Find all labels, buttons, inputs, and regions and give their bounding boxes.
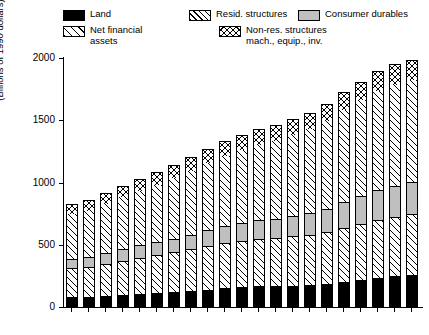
bar-1979: [219, 141, 231, 307]
bar-segment: [169, 240, 179, 254]
chart-container: Land Resid. structures Consumer durables…: [0, 0, 429, 335]
bar-segment: [339, 110, 349, 203]
x-tick-mark: [207, 308, 208, 312]
bar-segment: [305, 129, 315, 214]
bar-segment: [254, 240, 264, 287]
bar-segment: [135, 259, 145, 295]
bar-segment: [271, 239, 281, 287]
bar-segment: [407, 183, 417, 215]
bar-segment: [101, 254, 111, 265]
bar-segment: [322, 210, 332, 233]
bar-segment: [186, 236, 196, 251]
legend-label-land: Land: [90, 9, 111, 20]
x-tick-mark: [241, 308, 242, 312]
bar-segment: [169, 166, 179, 178]
x-tick-mark: [71, 308, 72, 312]
x-tick-mark: [360, 308, 361, 312]
bar-segment: [84, 211, 94, 258]
legend-label-non-res-structures: Non-res. structures mach., equip., inv.: [246, 25, 327, 46]
bar-segment: [390, 277, 400, 308]
bar-segment: [356, 197, 366, 224]
x-tick-mark: [377, 308, 378, 312]
bar-segment: [135, 246, 145, 258]
bar-segment: [322, 285, 332, 308]
y-tick-label: 500: [15, 240, 55, 250]
x-tick-mark: [411, 308, 412, 312]
bar-segment: [220, 227, 230, 244]
bar-segment: [254, 130, 264, 144]
bar-segment: [135, 295, 145, 308]
y-axis-title: (Billions of 1990 dollars): [0, 0, 5, 120]
plot-area: [64, 58, 422, 307]
bar-segment: [135, 191, 145, 246]
bar-segment: [271, 141, 281, 220]
bar-segment: [322, 105, 332, 121]
bar-segment: [322, 121, 332, 210]
bar-segment: [67, 260, 77, 269]
bar-1971: [83, 200, 95, 307]
bar-segment: [67, 269, 77, 298]
bar-segment: [220, 244, 230, 289]
diagonal-hatch-swatch-icon: [63, 26, 85, 37]
y-tick-label: 1500: [15, 115, 55, 125]
bar-segment: [67, 214, 77, 260]
bar-segment: [305, 286, 315, 308]
bar-segment: [203, 247, 213, 291]
bar-segment: [84, 298, 94, 308]
bar-1990: [406, 60, 418, 308]
bar-1973: [117, 186, 129, 307]
bar-1975: [151, 172, 163, 307]
bar-segment: [169, 178, 179, 239]
solid-black-swatch-icon: [63, 10, 85, 21]
bar-segment: [118, 250, 128, 262]
bar-segment: [373, 191, 383, 220]
bar-segment: [118, 197, 128, 250]
bar-segment: [186, 250, 196, 292]
bar-segment: [152, 173, 162, 184]
x-tick-mark: [190, 308, 191, 312]
x-tick-mark: [88, 308, 89, 312]
x-tick-mark: [105, 308, 106, 312]
x-tick-mark: [309, 308, 310, 312]
bar-segment: [305, 114, 315, 130]
bar-segment: [169, 253, 179, 293]
bar-1978: [202, 149, 214, 307]
bar-1988: [372, 71, 384, 307]
bar-segment: [288, 237, 298, 286]
x-tick-mark: [292, 308, 293, 312]
x-tick-mark: [173, 308, 174, 312]
bar-segment: [152, 243, 162, 256]
bar-segment: [373, 72, 383, 90]
bar-segment: [407, 80, 417, 183]
bar-segment: [407, 276, 417, 308]
bar-segment: [152, 185, 162, 243]
x-tick-mark: [139, 308, 140, 312]
bar-segment: [305, 236, 315, 286]
bar-segment: [339, 229, 349, 283]
bar-segment: [220, 289, 230, 308]
bar-segment: [67, 298, 77, 308]
bar-segment: [288, 120, 298, 135]
legend-item-resid-structures: Resid. structures: [189, 9, 287, 21]
crosshatch-swatch-icon: [219, 26, 241, 37]
chart-legend: Land Resid. structures Consumer durables…: [0, 0, 429, 52]
bar-segment: [84, 268, 94, 298]
x-tick-mark: [326, 308, 327, 312]
bar-1983: [287, 119, 299, 307]
diagonal-hatch-swatch-icon: [189, 10, 211, 21]
bar-1976: [168, 165, 180, 307]
y-tick-label: 1000: [15, 178, 55, 188]
bar-segment: [169, 293, 179, 308]
bar-segment: [356, 83, 366, 101]
bar-segment: [84, 258, 94, 268]
y-tick-mark: [59, 307, 64, 308]
bar-1982: [270, 125, 282, 307]
bar-segment: [271, 287, 281, 308]
bar-segment: [220, 142, 230, 155]
bar-segment: [288, 135, 298, 217]
bar-segment: [305, 214, 315, 235]
bar-segment: [356, 225, 366, 281]
bar-segment: [101, 297, 111, 308]
bar-1981: [253, 129, 265, 307]
bar-segment: [288, 287, 298, 308]
